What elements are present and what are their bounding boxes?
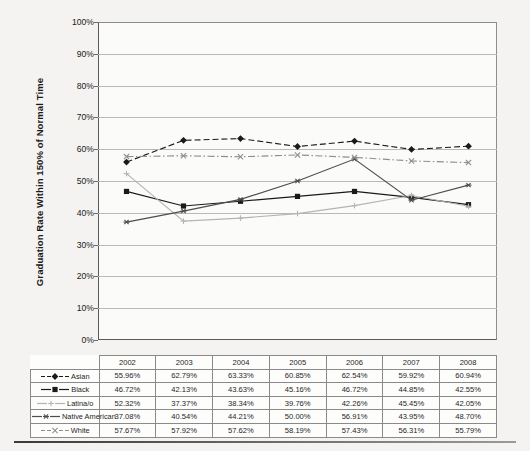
footer-rule xyxy=(14,441,516,443)
y-tick-mark xyxy=(94,340,98,341)
legend-item-native-american: Native American xyxy=(31,410,100,424)
table-cell: 60.94% xyxy=(440,369,497,383)
legend-marker-diamond-icon xyxy=(40,372,70,381)
y-tick-label: 20% xyxy=(48,271,94,281)
table-cell: 55.79% xyxy=(440,423,497,437)
data-point xyxy=(123,159,130,166)
table-cell: 46.72% xyxy=(99,383,156,397)
legend-item-latina-o: Latina/o xyxy=(31,396,100,410)
data-point xyxy=(351,138,358,145)
y-tick-label: 70% xyxy=(48,112,94,122)
table-cell: 55.96% xyxy=(99,369,156,383)
data-point xyxy=(352,189,357,194)
legend-swatch xyxy=(36,399,66,408)
data-point xyxy=(180,137,187,144)
data-point xyxy=(124,189,129,194)
legend-marker-plus-icon xyxy=(36,399,66,408)
series-line-asian xyxy=(127,139,469,162)
legend-swatch xyxy=(31,412,61,421)
y-axis-title: Graduation Rate Within 150% of Normal Ti… xyxy=(34,42,48,322)
data-point xyxy=(295,179,301,183)
y-tick-label: 40% xyxy=(48,208,94,218)
data-table: 2002200320042005200620072008 Asian55.96%… xyxy=(30,355,497,438)
legend-label: Native American xyxy=(61,412,116,421)
table-body: Asian55.96%62.79%63.33%60.85%62.54%59.92… xyxy=(31,369,497,437)
legend-item-asian: Asian xyxy=(31,369,100,383)
y-tick-label: 30% xyxy=(48,240,94,250)
table-cell: 42.55% xyxy=(440,383,497,397)
table-cell: 57.43% xyxy=(326,423,383,437)
table-cell: 42.05% xyxy=(440,396,497,410)
data-point xyxy=(124,220,130,224)
table-row: Black46.72%42.13%43.63%45.16%46.72%44.85… xyxy=(31,383,497,397)
table-cell: 63.33% xyxy=(213,369,270,383)
table-header-row: 2002200320042005200620072008 xyxy=(31,356,497,370)
chart-figure: Graduation Rate Within 150% of Normal Ti… xyxy=(0,0,530,451)
data-point xyxy=(408,146,415,153)
table-cell: 62.54% xyxy=(326,369,383,383)
table-cell: 59.92% xyxy=(383,369,440,383)
table-cell: 44.21% xyxy=(213,410,270,424)
table-row: Asian55.96%62.79%63.33%60.85%62.54%59.92… xyxy=(31,369,497,383)
table-cell: 60.85% xyxy=(269,369,326,383)
table-row: White57.67%57.92%57.62%58.19%57.43%56.31… xyxy=(31,423,497,437)
data-point xyxy=(52,428,57,433)
y-tick-label: 90% xyxy=(48,49,94,59)
data-point xyxy=(52,373,59,380)
data-point xyxy=(295,211,301,217)
y-tick-label: 80% xyxy=(48,81,94,91)
legend-marker-asterisk-icon xyxy=(31,412,61,421)
table-col-header: 2003 xyxy=(156,356,213,370)
data-point xyxy=(53,387,58,392)
legend-item-black: Black xyxy=(31,383,100,397)
table-cell: 46.72% xyxy=(326,383,383,397)
table-corner-cell xyxy=(31,356,100,370)
legend-swatch xyxy=(40,372,70,381)
table-cell: 43.95% xyxy=(383,410,440,424)
table-cell: 57.67% xyxy=(99,423,156,437)
legend-marker-x-icon xyxy=(40,426,70,435)
table-cell: 57.92% xyxy=(156,423,213,437)
table-cell: 56.91% xyxy=(326,410,383,424)
table-col-header: 2007 xyxy=(383,356,440,370)
legend-swatch xyxy=(40,385,70,394)
y-tick-label: 0% xyxy=(48,335,94,345)
series-canvas xyxy=(98,22,497,340)
table-col-header: 2004 xyxy=(213,356,270,370)
table-cell: 62.79% xyxy=(156,369,213,383)
legend-label: Latina/o xyxy=(66,399,93,408)
data-point xyxy=(465,143,472,150)
table-cell: 50.00% xyxy=(269,410,326,424)
table-cell: 37.37% xyxy=(156,396,213,410)
series-line-white xyxy=(127,155,469,163)
data-point xyxy=(181,209,187,213)
data-point xyxy=(466,183,472,187)
y-tick-label: 10% xyxy=(48,303,94,313)
legend-item-white: White xyxy=(31,423,100,437)
data-point xyxy=(48,401,54,407)
table-cell: 58.19% xyxy=(269,423,326,437)
table-cell: 42.26% xyxy=(326,396,383,410)
table-col-header: 2008 xyxy=(440,356,497,370)
table-cell: 39.76% xyxy=(269,396,326,410)
y-tick-label: 60% xyxy=(48,144,94,154)
table-cell: 57.62% xyxy=(213,423,270,437)
plot-area: 0%10%20%30%40%50%60%70%80%90%100% xyxy=(98,22,497,340)
data-point xyxy=(43,415,49,419)
legend-swatch xyxy=(40,426,70,435)
data-point xyxy=(352,203,358,209)
legend-label: Asian xyxy=(70,372,90,381)
table-cell: 38.34% xyxy=(213,396,270,410)
table-col-header: 2002 xyxy=(99,356,156,370)
table-col-header: 2006 xyxy=(326,356,383,370)
table-cell: 48.70% xyxy=(440,410,497,424)
table-cell: 43.63% xyxy=(213,383,270,397)
table-row: Latina/o52.32%37.37%38.34%39.76%42.26%45… xyxy=(31,396,497,410)
table-col-header: 2005 xyxy=(269,356,326,370)
data-point xyxy=(294,143,301,150)
table-cell: 44.85% xyxy=(383,383,440,397)
table-row: Native American37.08%40.54%44.21%50.00%5… xyxy=(31,410,497,424)
y-tick-label: 100% xyxy=(48,17,94,27)
table-cell: 52.32% xyxy=(99,396,156,410)
data-point xyxy=(295,194,300,199)
